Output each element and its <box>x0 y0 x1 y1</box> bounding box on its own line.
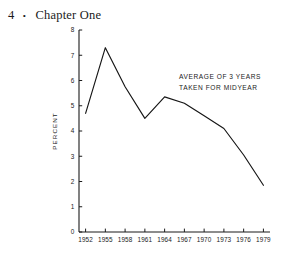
x-tick-label-1964: 1964 <box>157 236 172 243</box>
y-tick-label-3: 3 <box>71 153 75 160</box>
separator-bullet: • <box>23 11 26 21</box>
book-page: 4 • Chapter One 012345678 19521955195819… <box>0 0 288 260</box>
y-axis-tick-labels: 012345678 <box>71 26 75 235</box>
x-tick-label-1970: 1970 <box>197 236 212 243</box>
y-tick-label-2: 2 <box>71 178 75 185</box>
running-head: 4 • Chapter One <box>8 8 101 23</box>
x-axis-tick-labels: 1952195519581961196419671970197319761979 <box>78 236 271 243</box>
y-tick-label-8: 8 <box>71 26 75 33</box>
x-tick-label-1979: 1979 <box>256 236 271 243</box>
x-tick-label-1955: 1955 <box>98 236 113 243</box>
annotation-line-2: TAKEN FOR MIDYEAR <box>179 84 257 91</box>
chart-annotation: AVERAGE OF 3 YEARS TAKEN FOR MIDYEAR <box>179 73 261 91</box>
x-tick-label-1967: 1967 <box>177 236 192 243</box>
x-tick-label-1973: 1973 <box>217 236 232 243</box>
line-chart-figure: 012345678 195219551958196119641967197019… <box>0 26 288 260</box>
y-tick-label-0: 0 <box>71 228 75 235</box>
y-tick-label-7: 7 <box>71 52 75 59</box>
y-tick-label-5: 5 <box>71 102 75 109</box>
x-tick-label-1961: 1961 <box>138 236 153 243</box>
y-tick-label-6: 6 <box>71 77 75 84</box>
chart-canvas: 012345678 195219551958196119641967197019… <box>0 26 288 260</box>
page-number: 4 <box>8 8 14 22</box>
data-series-line <box>86 48 264 186</box>
x-tick-label-1976: 1976 <box>236 236 251 243</box>
y-tick-label-1: 1 <box>71 203 75 210</box>
x-tick-label-1952: 1952 <box>78 236 93 243</box>
annotation-line-1: AVERAGE OF 3 YEARS <box>179 73 261 80</box>
y-tick-label-4: 4 <box>71 127 75 134</box>
chapter-title: Chapter One <box>35 8 101 22</box>
x-tick-label-1958: 1958 <box>118 236 133 243</box>
y-axis-title: PERCENT <box>51 112 58 149</box>
